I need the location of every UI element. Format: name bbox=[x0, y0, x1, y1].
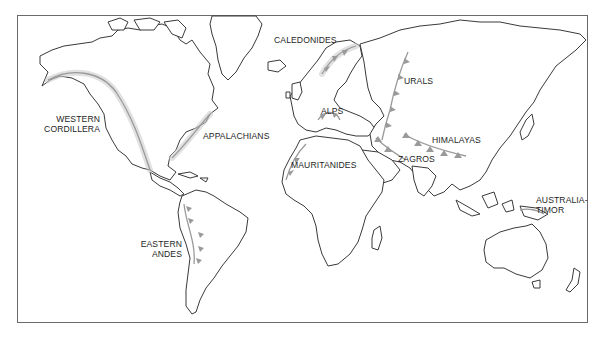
label-appalachians: APPALACHIANS bbox=[203, 131, 269, 141]
australia bbox=[484, 224, 548, 278]
label-urals: URALS bbox=[404, 76, 433, 86]
indonesia bbox=[456, 192, 548, 220]
label-caledonides: CALEDONIDES bbox=[274, 35, 337, 45]
tasmania bbox=[532, 280, 540, 288]
greenland bbox=[210, 16, 262, 80]
label-alps: ALPS bbox=[321, 106, 343, 116]
label-line: TIMOR bbox=[536, 205, 588, 215]
label-line: ANDES bbox=[134, 249, 182, 259]
label-line: AUSTRALIA- bbox=[536, 195, 588, 205]
label-line: CORDILLERA bbox=[44, 124, 100, 134]
label-mauritanides: MAURITANIDES bbox=[291, 160, 357, 170]
iceland bbox=[268, 60, 286, 72]
caribbean bbox=[178, 172, 208, 182]
north-america bbox=[40, 24, 218, 180]
label-western-cordillera: WESTERN CORDILLERA bbox=[44, 114, 100, 134]
label-line: EASTERN bbox=[134, 239, 182, 249]
madagascar bbox=[372, 226, 382, 250]
new-zealand bbox=[566, 268, 580, 292]
label-zagros: ZAGROS bbox=[398, 154, 435, 164]
label-line: WESTERN bbox=[44, 114, 100, 124]
label-himalayas: HIMALAYAS bbox=[432, 135, 481, 145]
british-isles bbox=[286, 82, 302, 100]
label-eastern-andes: EASTERN ANDES bbox=[134, 239, 182, 259]
label-australia-timor: AUSTRALIA- TIMOR bbox=[536, 195, 588, 215]
